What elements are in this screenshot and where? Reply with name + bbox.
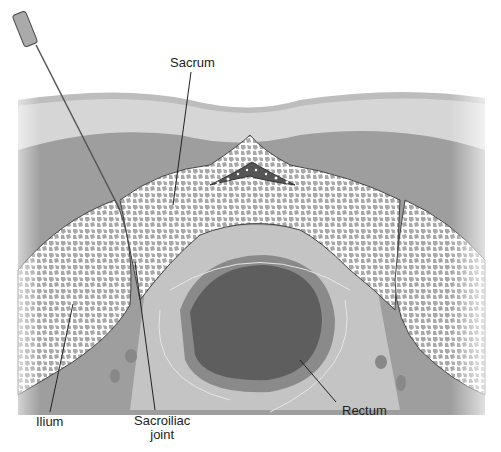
anatomy-diagram [0, 0, 501, 452]
label-rectum: Rectum [342, 404, 387, 418]
label-ilium: Ilium [36, 415, 63, 429]
label-sacroiliac-line2: joint [134, 428, 190, 442]
label-sacroiliac-line1: Sacroiliac [134, 414, 190, 428]
label-sacrum: Sacrum [170, 56, 215, 70]
label-sacroiliac-joint: Sacroiliac joint [134, 414, 190, 442]
